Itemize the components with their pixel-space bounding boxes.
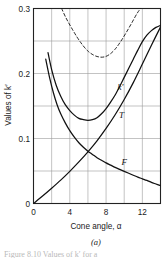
x-tick-label: 4 [68, 208, 73, 217]
curve-label-f: F [120, 157, 127, 167]
cone-angle-k-prime-chart: 0481200.10.20.3 k′TF Cone angle, α Value… [0, 0, 168, 258]
x-tick-label: 8 [104, 208, 109, 217]
y-axis-label: Values of k′ [4, 84, 13, 126]
y-tick-label: 0.3 [19, 5, 31, 14]
y-tick-label: 0.1 [19, 135, 31, 144]
y-tick-label: 0 [25, 200, 30, 209]
x-axis-label: Cone angle, α [70, 222, 121, 231]
figure-footnote: Figure 8.10 Values of k′ for a [4, 250, 98, 258]
y-tick-label: 0.2 [19, 70, 31, 79]
curve-label-k-prime: k′ [118, 82, 125, 92]
figure-container: 0481200.10.20.3 k′TF Cone angle, α Value… [0, 0, 168, 258]
x-tick-label: 12 [138, 208, 148, 217]
x-tick-label: 0 [31, 208, 36, 217]
chart-background [0, 0, 168, 258]
figure-caption: (a) [91, 237, 101, 247]
